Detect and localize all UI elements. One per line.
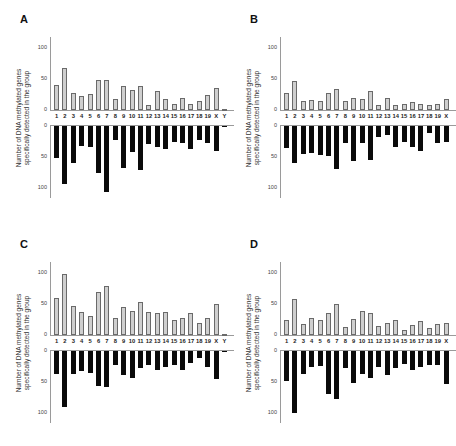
panel-letter: D bbox=[250, 238, 258, 250]
bar-upper bbox=[172, 320, 177, 336]
bar-upper bbox=[79, 312, 84, 335]
bar-upper bbox=[71, 93, 76, 110]
bar-upper bbox=[62, 68, 67, 110]
y-tick-lower: 0 bbox=[31, 122, 47, 128]
y-axis-label: Number of DNA methylated genesspecifical… bbox=[15, 43, 31, 193]
bar-upper bbox=[309, 318, 314, 335]
bar-lower bbox=[104, 351, 109, 387]
bar-lower bbox=[351, 351, 356, 383]
bar-lower bbox=[410, 126, 415, 147]
bar-upper bbox=[113, 318, 118, 335]
bar-lower bbox=[292, 351, 297, 413]
bar-lower bbox=[88, 126, 93, 147]
bar-lower bbox=[113, 126, 118, 140]
bar-lower bbox=[146, 126, 151, 144]
bar-lower bbox=[393, 126, 398, 147]
bar-upper bbox=[334, 304, 339, 335]
bar-upper bbox=[418, 321, 423, 335]
bar-lower bbox=[205, 126, 210, 143]
bar-upper bbox=[62, 274, 67, 335]
bar-lower bbox=[284, 126, 289, 148]
y-tick-lower: 0 bbox=[31, 347, 47, 353]
bar-upper bbox=[418, 104, 423, 110]
bar-lower bbox=[360, 351, 365, 374]
bar-upper bbox=[155, 91, 160, 110]
bar-lower bbox=[351, 126, 356, 161]
bar-lower bbox=[334, 351, 339, 399]
bar-upper bbox=[301, 324, 306, 335]
y-tick-lower: 100 bbox=[31, 409, 47, 415]
bar-lower bbox=[376, 126, 381, 137]
bar-lower bbox=[62, 351, 67, 407]
bar-lower bbox=[385, 351, 390, 375]
upper-y-axis bbox=[280, 37, 281, 110]
bar-lower bbox=[402, 126, 407, 142]
y-tick-upper: 50 bbox=[31, 75, 47, 81]
bar-upper bbox=[222, 334, 227, 336]
bar-lower bbox=[334, 126, 339, 169]
bar-upper bbox=[376, 105, 381, 110]
bar-upper bbox=[410, 102, 415, 110]
bar-lower bbox=[444, 351, 449, 384]
lower-y-axis bbox=[50, 125, 51, 198]
bar-lower bbox=[96, 126, 101, 173]
bar-lower bbox=[418, 351, 423, 367]
y-tick-lower: 100 bbox=[31, 184, 47, 190]
bar-lower bbox=[197, 126, 202, 140]
upper-x-axis bbox=[50, 110, 234, 111]
y-axis-label-line2: specifically detected in the group bbox=[253, 43, 261, 193]
bar-upper bbox=[326, 313, 331, 335]
bar-upper bbox=[104, 80, 109, 110]
bar-upper bbox=[155, 313, 160, 335]
bar-lower bbox=[214, 351, 219, 379]
bar-upper bbox=[393, 105, 398, 110]
y-axis-label: Number of DNA methylated genesspecifical… bbox=[245, 43, 261, 193]
bar-lower bbox=[284, 351, 289, 381]
y-tick-lower: 0 bbox=[261, 347, 277, 353]
bar-upper bbox=[188, 313, 193, 335]
category-label: Y bbox=[220, 338, 230, 344]
y-tick-upper: 100 bbox=[31, 44, 47, 50]
bar-upper bbox=[138, 302, 143, 335]
bar-lower bbox=[205, 351, 210, 367]
bar-upper bbox=[138, 86, 143, 110]
bar-upper bbox=[334, 89, 339, 110]
y-axis-label-line2: specifically detected in the group bbox=[253, 268, 261, 418]
bar-lower bbox=[130, 351, 135, 378]
lower-y-axis bbox=[50, 350, 51, 423]
bar-lower bbox=[180, 351, 185, 370]
y-tick-lower: 50 bbox=[261, 378, 277, 384]
bar-upper bbox=[96, 292, 101, 335]
bar-lower bbox=[138, 351, 143, 368]
bar-upper bbox=[326, 93, 331, 110]
bar-upper bbox=[188, 104, 193, 110]
category-label: X bbox=[441, 338, 451, 344]
panel-a: ANumber of DNA methylated genesspecifica… bbox=[0, 0, 225, 220]
upper-x-axis bbox=[280, 110, 456, 111]
upper-y-axis bbox=[50, 262, 51, 335]
bar-lower bbox=[309, 351, 314, 367]
bar-upper bbox=[180, 318, 185, 335]
category-label: X bbox=[441, 113, 451, 119]
bar-lower bbox=[62, 126, 67, 184]
bar-upper bbox=[292, 299, 297, 335]
bar-lower bbox=[71, 126, 76, 163]
bar-lower bbox=[163, 126, 168, 149]
bar-lower bbox=[146, 351, 151, 365]
bar-lower bbox=[418, 126, 423, 151]
bar-upper bbox=[130, 311, 135, 335]
lower-y-axis bbox=[280, 125, 281, 198]
bar-upper bbox=[79, 96, 84, 110]
bar-upper bbox=[292, 81, 297, 110]
bar-lower bbox=[163, 351, 168, 367]
bar-lower bbox=[188, 126, 193, 149]
bar-lower bbox=[104, 126, 109, 192]
lower-y-axis bbox=[280, 350, 281, 423]
bar-upper bbox=[197, 323, 202, 335]
bar-lower bbox=[172, 351, 177, 365]
y-axis-label: Number of DNA methylated genesspecifical… bbox=[245, 268, 261, 418]
y-tick-lower: 50 bbox=[261, 153, 277, 159]
bar-upper bbox=[318, 320, 323, 336]
bar-upper bbox=[444, 323, 449, 335]
y-tick-upper: 0 bbox=[261, 331, 277, 337]
